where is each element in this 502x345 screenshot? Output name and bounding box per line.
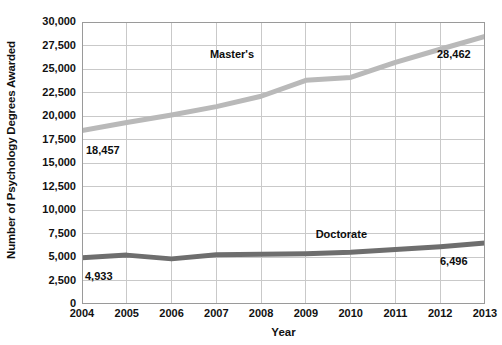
x-tick-label: 2005 bbox=[105, 307, 149, 319]
y-tick-label: 30,000 bbox=[10, 15, 76, 27]
x-tick-label: 2013 bbox=[463, 307, 502, 319]
y-tick-label: 20,000 bbox=[10, 109, 76, 121]
x-tick-label: 2011 bbox=[373, 307, 417, 319]
x-tick-label: 2004 bbox=[60, 307, 104, 319]
y-tick-label: 27,500 bbox=[10, 39, 76, 51]
x-tick-label: 2012 bbox=[418, 307, 462, 319]
x-tick-label: 2009 bbox=[284, 307, 328, 319]
y-tick-label: 12,500 bbox=[10, 180, 76, 192]
y-tick-label: 2,500 bbox=[10, 274, 76, 286]
x-axis-title: Year bbox=[82, 326, 485, 338]
masters-series-label: Master's bbox=[210, 48, 254, 60]
chart-canvas bbox=[82, 22, 485, 304]
y-tick-label: 5,000 bbox=[10, 250, 76, 262]
x-tick-label: 2006 bbox=[150, 307, 194, 319]
y-tick-label: 25,000 bbox=[10, 62, 76, 74]
y-tick-label: 22,500 bbox=[10, 86, 76, 98]
x-tick-label: 2010 bbox=[329, 307, 373, 319]
series-line-doctorate bbox=[82, 243, 485, 259]
y-tick-label: 7,500 bbox=[10, 227, 76, 239]
doctorate-end-value: 6,496 bbox=[440, 255, 468, 267]
y-axis-tick-labels: 02,5005,0007,50010,00012,50015,00017,500… bbox=[10, 0, 76, 345]
doctorate-series-label: Doctorate bbox=[316, 228, 367, 240]
x-axis-tick-labels: 2004200520062007200820092010201120122013 bbox=[82, 307, 485, 325]
masters-end-value: 28,462 bbox=[437, 48, 471, 60]
plot-area bbox=[82, 22, 485, 304]
grid-lines bbox=[82, 22, 485, 304]
x-tick-label: 2007 bbox=[194, 307, 238, 319]
y-tick-label: 15,000 bbox=[10, 156, 76, 168]
masters-start-value: 18,457 bbox=[86, 144, 120, 156]
y-tick-label: 17,500 bbox=[10, 133, 76, 145]
y-tick-label: 10,000 bbox=[10, 203, 76, 215]
series-lines bbox=[82, 36, 485, 258]
x-tick-label: 2008 bbox=[239, 307, 283, 319]
doctorate-start-value: 4,933 bbox=[85, 270, 113, 282]
